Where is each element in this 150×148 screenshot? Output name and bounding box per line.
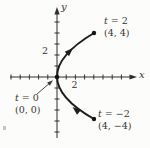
annotation-t-neg2-point: (4, −4) [98, 120, 132, 132]
parametric-curve-figure: y x 2 2 t = 2 (4, 4) t = 0 (0, 0) t = −2… [0, 0, 150, 148]
y-tick-label-2: 2 [42, 45, 48, 57]
point-t2 [92, 31, 96, 35]
x-axis-arrow-icon [130, 74, 138, 79]
annotation-origin-param: t = 0 [15, 92, 41, 104]
annotation-origin: t = 0 (0, 0) [15, 92, 41, 115]
annotation-t2: t = 2 (4, 4) [104, 15, 130, 38]
scan-artifact [3, 126, 6, 130]
x-axis-label: x [139, 70, 145, 80]
annotation-t2-point: (4, 4) [104, 27, 130, 39]
y-axis-label: y [61, 2, 67, 12]
point-t-neg2 [92, 117, 96, 121]
annotation-t-neg2: t = −2 (4, −4) [98, 108, 132, 131]
y-axis-arrow-icon [54, 7, 59, 15]
x-tick-label-2: 2 [72, 79, 78, 91]
annotation-t-neg2-param: t = −2 [98, 108, 132, 120]
annotation-origin-point: (0, 0) [15, 104, 41, 116]
annotation-t2-param: t = 2 [104, 15, 130, 27]
point-origin [55, 75, 60, 80]
